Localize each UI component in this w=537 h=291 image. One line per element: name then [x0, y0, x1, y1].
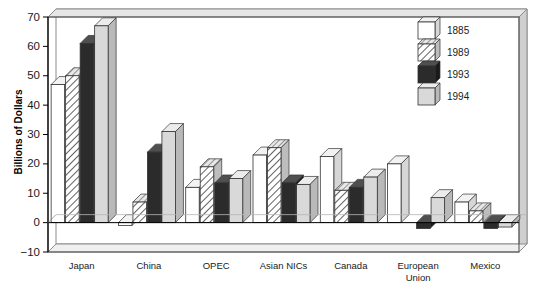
bar-front-face — [388, 164, 402, 223]
legend-label: 1989 — [447, 47, 470, 58]
bar-side-face — [175, 124, 183, 223]
bar-front-face — [417, 223, 431, 229]
y-tick-label: 40 — [27, 99, 40, 111]
y-tick-label: 20 — [27, 157, 40, 169]
legend-label: 1885 — [447, 25, 470, 36]
x-tick-label: Mexico — [470, 260, 500, 271]
bar-front-face — [268, 148, 282, 223]
bar-front-face — [51, 85, 64, 223]
bar-front-face — [147, 152, 161, 223]
y-axis-title-text: Billions of Dollars — [13, 89, 24, 174]
bar-front-face — [320, 157, 334, 223]
y-tick-label: 0 — [34, 216, 40, 228]
y-axis: −10010203040506070 — [20, 11, 48, 258]
bar-front-face — [229, 179, 243, 223]
bar-front-face — [455, 202, 469, 223]
y-tick-label: 30 — [27, 128, 40, 140]
bar-side-face — [401, 156, 409, 223]
bar-front-face — [66, 76, 80, 223]
bar-front-face — [335, 190, 349, 222]
legend-swatch — [418, 88, 435, 105]
bar-front-face — [186, 187, 200, 222]
x-tick-label: European — [397, 260, 438, 271]
bar-front-face — [95, 26, 109, 223]
legend-swatch — [418, 44, 435, 61]
legend-label: 1993 — [447, 69, 470, 80]
x-tick-label-line2: Union — [406, 272, 431, 283]
bar-front-face — [162, 132, 176, 223]
x-tick-label: China — [137, 260, 163, 271]
bar-chart: −10010203040506070 JapanChinaOPECAsian N… — [0, 0, 537, 291]
bar-side-face — [310, 176, 318, 222]
x-axis: JapanChinaOPECAsian NICsCanadaEuropeanUn… — [69, 260, 501, 283]
bar-front-face — [349, 187, 363, 222]
bar-1885-european — [388, 156, 410, 223]
bar-side-face — [108, 18, 116, 223]
bar-front-face — [133, 202, 147, 223]
y-tick-label: −10 — [20, 246, 40, 258]
legend-swatch — [418, 66, 435, 83]
bar-front-face — [469, 211, 483, 223]
x-tick-label: Canada — [334, 260, 368, 271]
legend-swatch — [418, 22, 435, 39]
x-tick-label: Asian NICs — [260, 260, 308, 271]
bar-front-face — [364, 177, 378, 223]
y-tick-label: 50 — [27, 69, 40, 81]
bar-front-face — [215, 183, 229, 223]
bar-front-face — [282, 183, 296, 223]
bar-1994-european — [431, 190, 453, 223]
y-tick-label: 70 — [27, 11, 40, 23]
y-axis-title: Billions of Dollars — [13, 89, 24, 174]
x-tick-label: Japan — [69, 260, 95, 271]
bar-front-face — [498, 223, 512, 227]
bar-front-face — [253, 155, 267, 223]
bar-1994-asian-nics — [297, 176, 319, 222]
y-tick-label: 60 — [27, 40, 40, 52]
bar-1994-china — [162, 124, 184, 223]
bar-front-face — [431, 198, 445, 223]
bar-front-face — [297, 184, 311, 222]
chart-canvas: −10010203040506070 JapanChinaOPECAsian N… — [0, 0, 537, 291]
y-tick-label: 10 — [27, 187, 40, 199]
bar-1994-japan — [95, 18, 117, 223]
x-tick-label: OPEC — [203, 260, 230, 271]
bar-front-face — [484, 223, 498, 229]
legend-label: 1994 — [447, 91, 470, 102]
bar-front-face — [80, 43, 94, 222]
